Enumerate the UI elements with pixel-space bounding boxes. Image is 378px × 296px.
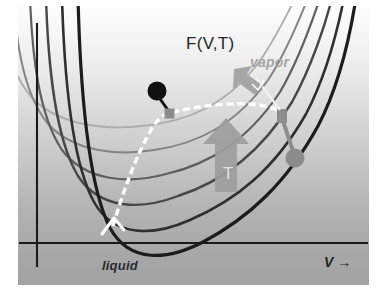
axes-group: [20, 24, 367, 266]
gray-square-left: [165, 109, 175, 119]
gray-filled-circle: [286, 149, 305, 168]
x-axis-label: V →: [324, 254, 351, 270]
temperature-arrow-label: T: [223, 164, 233, 184]
black-filled-circle: [148, 82, 167, 101]
vapor-label: vapor: [250, 54, 289, 70]
page-title: F(V,T): [186, 34, 234, 54]
liquid-label: liquid: [102, 258, 138, 273]
gray-square-right: [277, 109, 287, 123]
plot-surface: F(V,T) vapor liquid V → T: [18, 6, 369, 285]
free-energy-diagram: F(V,T) vapor liquid V → T: [0, 0, 378, 296]
